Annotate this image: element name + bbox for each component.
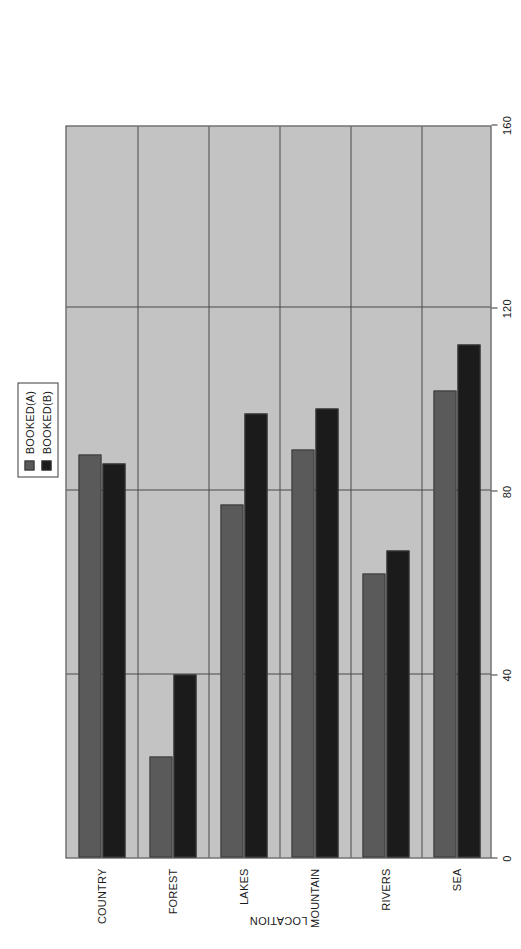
- bar-forest-bookeda: [149, 756, 172, 857]
- category-tick-label: FOREST: [166, 868, 178, 914]
- value-tick-label: 120: [500, 299, 512, 318]
- gridline: [66, 490, 490, 491]
- category-gridline: [350, 126, 351, 857]
- plot-area: [65, 125, 491, 858]
- category-gridline: [208, 126, 209, 857]
- bar-lakes-bookedb: [244, 413, 267, 857]
- category-gridline: [279, 126, 280, 857]
- category-tick-label: LAKES: [237, 868, 249, 904]
- value-tick-label: 40: [500, 668, 512, 681]
- legend-swatch-icon-b: [41, 460, 51, 470]
- value-tick-label: 80: [500, 485, 512, 498]
- category-gridline: [421, 126, 422, 857]
- value-tick-label: 0: [500, 855, 512, 861]
- bar-rivers-bookeda: [362, 573, 385, 857]
- bar-lakes-bookeda: [220, 504, 243, 857]
- bar-forest-bookedb: [173, 674, 196, 857]
- category-tick-label: COUNTRY: [95, 868, 107, 924]
- bar-sea-bookeda: [433, 390, 456, 857]
- value-tick: [491, 857, 497, 858]
- legend-entry-booked-b: BOOKED(B): [40, 390, 52, 470]
- legend-label-booked-b: BOOKED(B): [40, 390, 52, 454]
- category-tick-label: RIVERS: [379, 868, 391, 910]
- bar-country-bookedb: [102, 463, 125, 857]
- bar-mountain-bookeda: [291, 449, 314, 857]
- category-gridline: [137, 126, 138, 857]
- legend-label-booked-a: BOOKED(A): [23, 390, 35, 454]
- value-tick: [491, 307, 497, 308]
- legend-swatch-icon-a: [24, 460, 34, 470]
- gridline: [66, 306, 490, 307]
- bar-sea-bookedb: [457, 344, 480, 857]
- category-axis-title: LOCATION: [249, 914, 307, 926]
- bar-rivers-bookedb: [386, 550, 409, 857]
- gridline: [66, 673, 490, 674]
- chart-figure-wrapper: 04080120160 COUNTRYFORESTLAKESMOUNTAINRI…: [0, 0, 521, 949]
- bar-mountain-bookedb: [315, 408, 338, 857]
- category-tick-label: MOUNTAIN: [308, 868, 320, 927]
- value-tick-label: 160: [500, 116, 512, 135]
- legend-entry-booked-a: BOOKED(A): [23, 390, 35, 470]
- value-tick: [491, 491, 497, 492]
- category-tick-label: SEA: [450, 868, 462, 891]
- bar-chart-figure: 04080120160 COUNTRYFORESTLAKESMOUNTAINRI…: [0, 0, 521, 949]
- value-tick: [491, 124, 497, 125]
- value-tick: [491, 674, 497, 675]
- bar-country-bookeda: [78, 454, 101, 857]
- chart-legend: BOOKED(A) BOOKED(B): [17, 382, 58, 477]
